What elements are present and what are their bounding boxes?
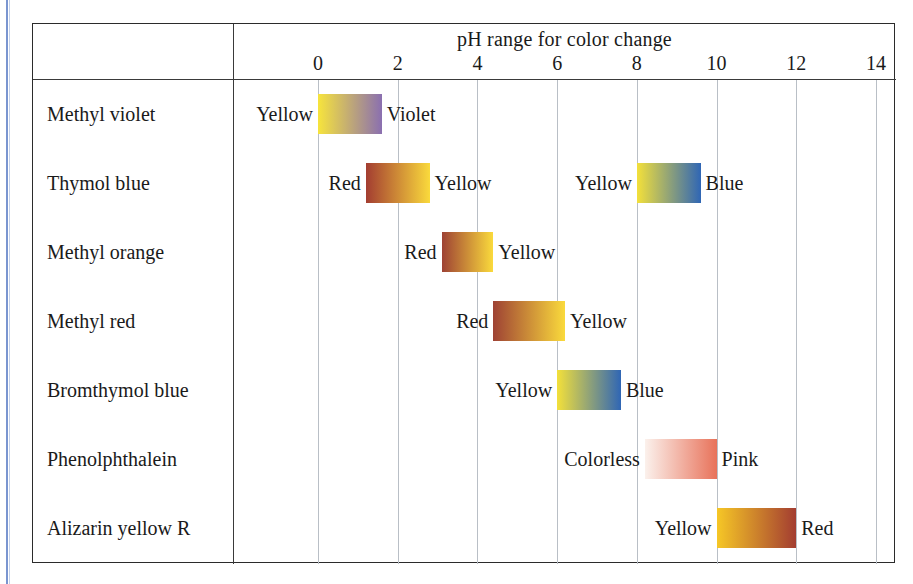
acid-color-label: Yellow <box>495 380 557 400</box>
axis-tick-0: 0 <box>298 52 338 75</box>
color-change-band: YellowViolet <box>318 94 382 134</box>
table-row: Alizarin yellow RYellowRed <box>33 493 896 562</box>
acid-color-label: Colorless <box>564 449 645 469</box>
acid-color-label: Red <box>404 242 441 262</box>
color-gradient-swatch <box>493 301 565 341</box>
indicator-name-label: Phenolphthalein <box>47 448 177 471</box>
axis-tick-12: 12 <box>776 52 816 75</box>
color-gradient-swatch <box>637 163 701 203</box>
indicator-name-label: Alizarin yellow R <box>47 516 190 539</box>
indicator-name-label: Methyl red <box>47 310 135 333</box>
acid-color-label: Red <box>329 173 366 193</box>
acid-color-label: Red <box>456 311 493 331</box>
table-row: Methyl violetYellowViolet <box>33 80 896 149</box>
table-row: Methyl redRedYellow <box>33 287 896 356</box>
axis-tick-10: 10 <box>697 52 737 75</box>
base-color-label: Yellow <box>493 242 555 262</box>
indicator-name-label: Bromthymol blue <box>47 379 189 402</box>
axis-tick-4: 4 <box>457 52 497 75</box>
axis-tick-14: 14 <box>856 52 896 75</box>
axis-tick-8: 8 <box>617 52 657 75</box>
table-row: Methyl orangeRedYellow <box>33 218 896 287</box>
color-change-band: YellowBlue <box>637 163 701 203</box>
base-color-label: Violet <box>382 104 436 124</box>
base-color-label: Red <box>796 518 833 538</box>
table-row: Bromthymol blueYellowBlue <box>33 356 896 425</box>
base-color-label: Pink <box>717 449 759 469</box>
color-change-band: RedYellow <box>493 301 565 341</box>
base-color-label: Yellow <box>565 311 627 331</box>
page-left-rule <box>6 0 8 584</box>
color-change-band: RedYellow <box>442 232 494 272</box>
color-gradient-swatch <box>442 232 494 272</box>
ph-indicator-table: pH range for color change 02468101214 Me… <box>32 23 895 563</box>
color-gradient-swatch <box>645 439 717 479</box>
page-left-rule-soft <box>9 0 10 584</box>
table-row: Thymol blueRedYellowYellowBlue <box>33 149 896 218</box>
acid-color-label: Yellow <box>256 104 318 124</box>
color-gradient-swatch <box>557 370 621 410</box>
color-gradient-swatch <box>717 508 797 548</box>
base-color-label: Blue <box>701 173 744 193</box>
color-gradient-swatch <box>366 163 430 203</box>
table-row: PhenolphthaleinColorlessPink <box>33 425 896 494</box>
acid-color-label: Yellow <box>575 173 637 193</box>
chart-title: pH range for color change <box>233 28 896 51</box>
axis-tick-6: 6 <box>537 52 577 75</box>
axis-tick-2: 2 <box>378 52 418 75</box>
indicator-name-label: Methyl orange <box>47 241 164 264</box>
base-color-label: Blue <box>621 380 664 400</box>
color-change-band: ColorlessPink <box>645 439 717 479</box>
color-gradient-swatch <box>318 94 382 134</box>
acid-color-label: Yellow <box>655 518 717 538</box>
base-color-label: Yellow <box>430 173 492 193</box>
color-change-band: YellowRed <box>717 508 797 548</box>
color-change-band: RedYellow <box>366 163 430 203</box>
indicator-name-label: Thymol blue <box>47 172 150 195</box>
color-change-band: YellowBlue <box>557 370 621 410</box>
indicator-name-label: Methyl violet <box>47 103 155 126</box>
